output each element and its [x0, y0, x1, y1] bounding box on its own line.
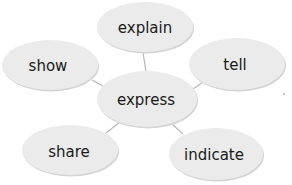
node-label-express: express [117, 91, 175, 109]
node-indicate: indicate [169, 128, 264, 182]
node-show: show [2, 40, 99, 92]
node-label-explain: explain [118, 19, 172, 37]
connector-share [106, 122, 120, 133]
node-share: share [22, 125, 119, 177]
connector-indicate [172, 124, 183, 134]
node-express-center: express [97, 71, 198, 129]
stray-dot [283, 93, 285, 95]
connector-tell [193, 82, 203, 89]
node-label-show: show [29, 57, 68, 75]
node-label-indicate: indicate [184, 146, 244, 164]
node-tell: tell [189, 38, 286, 92]
connector-show [92, 80, 103, 86]
node-label-tell: tell [223, 56, 246, 74]
node-label-share: share [48, 143, 90, 161]
node-explain: explain [97, 2, 194, 54]
word-web-diagram: explain show tell express share indicate [0, 0, 292, 185]
connector-explain [143, 52, 146, 72]
